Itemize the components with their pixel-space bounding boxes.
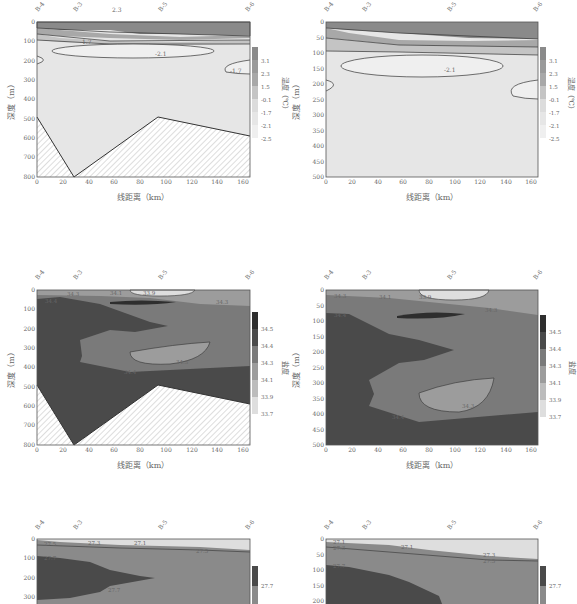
svg-text:60: 60 (399, 178, 407, 185)
station-label: B-5 (445, 268, 457, 281)
svg-text:34.3: 34.3 (549, 363, 562, 369)
colorbar: 3.12.31.5-0.1-1.7-2.1-2.5 温度（℃） (252, 47, 290, 142)
svg-text:34.4: 34.4 (45, 298, 58, 304)
x-axis-label: 线距离（km） (406, 192, 458, 202)
svg-text:120: 120 (186, 446, 198, 453)
svg-text:800: 800 (24, 173, 36, 180)
station-label: B-4 (33, 268, 45, 281)
svg-text:0: 0 (324, 178, 328, 185)
svg-text:34.4: 34.4 (261, 343, 274, 349)
station-label: B-6 (243, 268, 255, 281)
svg-text:-0.1: -0.1 (261, 97, 272, 103)
colorbar-level: 27.7 (261, 583, 274, 589)
station-label: B-4 (322, 520, 334, 531)
svg-text:700: 700 (24, 421, 36, 428)
x-axis-label: 线距离（km） (117, 192, 169, 202)
station-label: B-6 (243, 520, 255, 531)
svg-text:160: 160 (525, 178, 537, 185)
contour-label: -1.7 (230, 67, 242, 74)
svg-text:80: 80 (425, 178, 433, 185)
svg-text:40: 40 (374, 178, 382, 185)
svg-text:0: 0 (324, 446, 328, 453)
svg-text:27.7: 27.7 (108, 587, 121, 593)
svg-text:34.3: 34.3 (176, 359, 189, 365)
y-axis-ticks: 050100150200 (313, 535, 325, 604)
station-label: B-4 (322, 0, 334, 13)
svg-text:100: 100 (24, 305, 36, 312)
svg-text:33.9: 33.9 (261, 394, 274, 400)
station-label: B-3 (360, 0, 372, 13)
svg-text:350: 350 (313, 127, 325, 134)
svg-text:300: 300 (24, 593, 36, 600)
y-axis-ticks: 0100200300 (24, 535, 36, 600)
salinity-section-800m: 34.3 34.1 33.9 34.3 34.4 34.3 34.4 B-4 B… (0, 268, 288, 487)
colorbar-segment (252, 586, 258, 604)
svg-text:500: 500 (24, 115, 36, 122)
svg-text:0: 0 (320, 18, 324, 25)
svg-text:0: 0 (35, 446, 39, 453)
svg-text:40: 40 (85, 178, 93, 185)
svg-text:0: 0 (31, 535, 35, 542)
svg-text:34.3: 34.3 (67, 291, 80, 297)
x-axis-label: 线距离（km） (117, 460, 169, 470)
svg-text:2.3: 2.3 (549, 71, 558, 77)
svg-text:600: 600 (24, 402, 36, 409)
svg-text:200: 200 (313, 80, 325, 87)
svg-text:60: 60 (110, 446, 118, 453)
svg-text:27.5: 27.5 (196, 548, 209, 554)
svg-text:20: 20 (348, 178, 356, 185)
svg-text:300: 300 (313, 379, 325, 386)
svg-text:27.5: 27.5 (44, 541, 57, 547)
y-axis-ticks: 050100150200250300350400450500 (313, 18, 325, 180)
svg-text:80: 80 (136, 178, 144, 185)
svg-text:140: 140 (211, 446, 223, 453)
svg-text:3.1: 3.1 (549, 58, 558, 64)
svg-text:350: 350 (313, 395, 325, 402)
svg-text:0: 0 (31, 286, 35, 293)
svg-text:0: 0 (31, 18, 35, 25)
colorbar (252, 566, 258, 586)
svg-text:34.1: 34.1 (379, 294, 391, 300)
svg-text:27.1: 27.1 (401, 544, 413, 550)
svg-text:60: 60 (110, 178, 118, 185)
svg-text:400: 400 (313, 142, 325, 149)
svg-text:100: 100 (313, 317, 325, 324)
chart-temp-full: -1.7 -2.1 2.3 -1.7 B-4 B-3 B-5 B-6 01002… (0, 0, 290, 215)
salinity-section-500m: 34.3 34.1 33.9 34.3 34.4 34.3 34.4 B-4 B… (289, 268, 577, 487)
svg-text:34.3: 34.3 (462, 403, 475, 409)
svg-text:140: 140 (211, 178, 223, 185)
svg-text:400: 400 (24, 95, 36, 102)
svg-text:20: 20 (348, 446, 356, 453)
svg-text:250: 250 (313, 96, 325, 103)
svg-text:27.7: 27.7 (44, 555, 57, 561)
svg-text:800: 800 (24, 441, 36, 448)
svg-text:200: 200 (313, 348, 325, 355)
svg-text:-2.5: -2.5 (261, 136, 272, 142)
colorbar: 34.534.434.334.133.933.7 盐度 (540, 315, 577, 420)
svg-text:160: 160 (525, 446, 537, 453)
svg-text:1.5: 1.5 (549, 84, 558, 90)
svg-text:300: 300 (24, 344, 36, 351)
svg-text:-2.1: -2.1 (549, 123, 560, 129)
svg-text:500: 500 (313, 173, 325, 180)
svg-text:34.1: 34.1 (110, 290, 122, 296)
colorbar-label: 盐度 (568, 361, 577, 375)
svg-text:27.5: 27.5 (483, 558, 496, 564)
station-label: B-3 (360, 520, 372, 531)
svg-text:34.1: 34.1 (549, 380, 561, 386)
density-section-500m: 27.1 27.3 27.1 27.3 27.5 27.7 B-4 B-3 B-… (289, 520, 577, 604)
y-axis-label: 深度（m） (291, 80, 301, 120)
svg-text:150: 150 (313, 65, 325, 72)
station-label: B-3 (360, 268, 372, 281)
svg-text:0: 0 (320, 535, 324, 542)
station-label: B-6 (531, 520, 543, 531)
svg-text:150: 150 (313, 333, 325, 340)
station-label: B-4 (33, 520, 45, 531)
svg-text:34.4: 34.4 (334, 312, 347, 318)
svg-text:33.7: 33.7 (261, 411, 274, 417)
station-label: B-5 (156, 520, 168, 531)
x-axis-ticks: 020406080100120140160 (35, 446, 249, 453)
svg-text:450: 450 (313, 426, 325, 433)
svg-text:34.4: 34.4 (392, 414, 405, 420)
svg-text:200: 200 (24, 574, 36, 581)
